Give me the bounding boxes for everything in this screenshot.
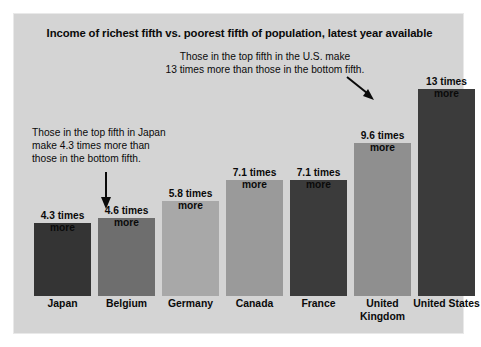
bar-france[interactable] bbox=[290, 180, 347, 296]
bar-united-kingdom[interactable] bbox=[354, 143, 411, 296]
bar-value-germany: 5.8 times more bbox=[156, 188, 225, 213]
chart-panel: Income of richest fifth vs. poorest fift… bbox=[13, 13, 464, 334]
bar-category-japan: Japan bbox=[28, 298, 97, 311]
bar-value-japan: 4.3 times more bbox=[28, 210, 97, 235]
bar-category-germany: Germany bbox=[156, 298, 225, 311]
bar-value-united-states: 13 times more bbox=[412, 76, 481, 101]
chart-plot-area: 4.3 times more Japan 4.6 times more Belg… bbox=[14, 14, 465, 335]
bar-value-belgium: 4.6 times more bbox=[92, 205, 161, 230]
bar-category-france: France bbox=[284, 298, 353, 311]
bar-category-belgium: Belgium bbox=[92, 298, 161, 311]
bar-germany[interactable] bbox=[162, 201, 219, 296]
bar-value-france: 7.1 times more bbox=[284, 167, 353, 192]
bar-value-canada: 7.1 times more bbox=[220, 167, 289, 192]
bar-category-united-kingdom: United Kingdom bbox=[348, 298, 417, 323]
bar-category-canada: Canada bbox=[220, 298, 289, 311]
bar-canada[interactable] bbox=[226, 180, 283, 296]
bar-united-states[interactable] bbox=[418, 89, 475, 296]
bar-category-united-states: United States bbox=[412, 298, 481, 311]
bar-value-united-kingdom: 9.6 times more bbox=[348, 130, 417, 155]
